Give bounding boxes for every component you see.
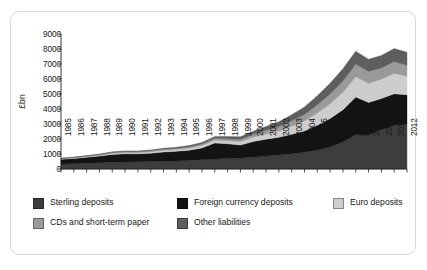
x-tick-label: 2004 [308, 125, 317, 136]
x-tick-label: 2002 [282, 125, 291, 136]
x-tick-label: 2000 [256, 125, 265, 136]
legend-item-other-liabilities: Other liabilities [177, 217, 317, 229]
x-tick-label: 1986 [77, 125, 86, 136]
legend-item-foreign-currency-deposits: Foreign currency deposits [177, 197, 337, 209]
legend-item-sterling-deposits: Sterling deposits [33, 197, 173, 209]
chart-plot-area: 9000800070006000500040003000200010000 £b… [11, 12, 417, 194]
legend-label: Foreign currency deposits [194, 197, 293, 208]
figure-card: 9000800070006000500040003000200010000 £b… [10, 11, 416, 255]
legend-label: Sterling deposits [50, 197, 114, 208]
x-tick-label: 2005 [320, 125, 329, 136]
x-tick-label: 1990 [128, 125, 137, 136]
x-tick-label: 1989 [115, 125, 124, 136]
chart-legend: Sterling deposits Foreign currency depos… [33, 195, 405, 251]
legend-item-euro-deposits: Euro deposits [333, 197, 427, 209]
x-tick-label: 2008 [359, 125, 368, 136]
x-tick-label: 2003 [295, 125, 304, 136]
x-tick-label: 1991 [141, 125, 150, 136]
legend-swatch-icon [333, 198, 344, 209]
x-tick-label: 2012 [410, 125, 419, 136]
legend-label: Euro deposits [350, 197, 403, 208]
x-tick-label: 1999 [244, 125, 253, 136]
x-tick-label: 2007 [346, 125, 355, 136]
legend-item-cds-and-short-term-paper: CDs and short-term paper [33, 217, 165, 229]
x-tick-label: 1993 [167, 125, 176, 136]
x-tick-label: 2006 [333, 125, 342, 136]
x-tick-label: 1996 [205, 125, 214, 136]
legend-swatch-icon [177, 198, 188, 209]
legend-swatch-icon [33, 218, 44, 229]
x-tick-label: 2011 [397, 125, 406, 136]
legend-swatch-icon [177, 218, 188, 229]
x-tick-label: 1988 [103, 125, 112, 136]
x-tick-label: 1997 [218, 125, 227, 136]
x-tick-label: 1992 [154, 125, 163, 136]
legend-swatch-icon [33, 198, 44, 209]
legend-label: Other liabilities [194, 217, 250, 228]
x-tick-label: 2001 [269, 125, 278, 136]
x-axis-tick-labels: 1985198619871988198919901991199219931994… [11, 12, 417, 194]
x-tick-label: 1994 [180, 125, 189, 136]
x-tick-label: 1987 [90, 125, 99, 136]
x-tick-label: 1995 [192, 125, 201, 136]
x-tick-label: 1998 [231, 125, 240, 136]
legend-label: CDs and short-term paper [50, 217, 149, 228]
x-tick-label: 1985 [64, 125, 73, 136]
x-tick-label: 2010 [385, 125, 394, 136]
x-tick-label: 2009 [372, 125, 381, 136]
